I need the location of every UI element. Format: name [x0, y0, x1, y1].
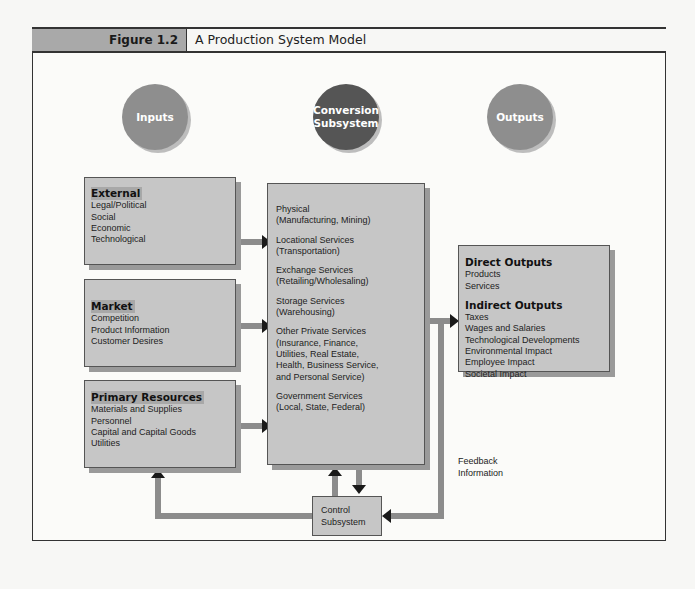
primary-resources-input-box: Primary Resources Materials and Supplies…: [84, 380, 236, 468]
indirect-output-item: Wages and Salaries: [465, 323, 609, 334]
conversion-box: Physical (Manufacturing, Mining) Locatio…: [267, 183, 425, 465]
arrow-left-icon: [382, 509, 391, 523]
conversion-line: (Transportation): [276, 246, 424, 257]
direct-output-item: Services: [465, 281, 609, 292]
figure-label: Figure 1.2: [32, 29, 187, 51]
feedback-vertical-pipe: [438, 321, 444, 519]
control-to-conversion-pipe: [332, 476, 338, 497]
conversion-line: Government Services: [276, 391, 424, 402]
external-heading: External: [91, 187, 142, 200]
control-line1: Control: [321, 505, 350, 515]
primary-resources-item: Utilities: [91, 438, 235, 449]
control-to-inputs-pipe: [155, 513, 313, 519]
conversion-group-other-private: Other Private Services (Insurance, Finan…: [276, 326, 424, 382]
conversion-line: Other Private Services: [276, 326, 424, 337]
conversion-group-storage: Storage Services (Warehousing): [276, 296, 424, 319]
conversion-line: Exchange Services: [276, 265, 424, 276]
conversion-group-exchange: Exchange Services (Retailing/Wholesaling…: [276, 265, 424, 288]
indirect-output-item: Technological Developments: [465, 335, 609, 346]
arrow-up-icon: [328, 467, 342, 476]
outputs-box: Direct Outputs Products Services Indirec…: [458, 245, 610, 372]
external-item: Social: [91, 212, 235, 223]
market-heading: Market: [91, 300, 135, 313]
conversion-line: Locational Services: [276, 235, 424, 246]
conversion-line: (Warehousing): [276, 307, 424, 318]
indirect-output-item: Taxes: [465, 312, 609, 323]
conversion-to-control-pipe: [356, 466, 362, 486]
conversion-line: (Manufacturing, Mining): [276, 215, 424, 226]
primary-resources-item: Materials and Supplies: [91, 404, 235, 415]
direct-output-item: Products: [465, 269, 609, 280]
inputs-circle-label: Inputs: [136, 111, 174, 124]
feedback-line2: Information: [458, 468, 503, 480]
conversion-line: Physical: [276, 204, 424, 215]
market-item: Competition: [91, 313, 235, 324]
conversion-circle: Conversion Subsystem: [313, 84, 379, 150]
conversion-line: Health, Business Service,: [276, 360, 424, 371]
market-item: Customer Desires: [91, 336, 235, 347]
market-input-box: Market Competition Product Information C…: [84, 279, 236, 367]
conversion-line: Storage Services: [276, 296, 424, 307]
conversion-group-locational: Locational Services (Transportation): [276, 235, 424, 258]
conversion-line: Utilities, Real Estate,: [276, 349, 424, 360]
conversion-group-government: Government Services (Local, State, Feder…: [276, 391, 424, 414]
arrow-down-icon: [352, 485, 366, 494]
conversion-line: (Retailing/Wholesaling): [276, 276, 424, 287]
figure-header: Figure 1.2 A Production System Model: [32, 29, 666, 51]
conversion-line: (Local, State, Federal): [276, 402, 424, 413]
feedback-line1: Feedback: [458, 456, 503, 468]
external-item: Legal/Political: [91, 200, 235, 211]
indirect-outputs-heading: Indirect Outputs: [465, 299, 562, 312]
direct-outputs-heading: Direct Outputs: [465, 256, 552, 269]
figure-title: A Production System Model: [195, 29, 366, 51]
external-input-box: External Legal/Political Social Economic…: [84, 177, 236, 265]
conversion-line: and Personal Service): [276, 372, 424, 383]
arrow-up-icon: [151, 469, 165, 478]
outputs-circle-label: Outputs: [496, 111, 544, 124]
conversion-circle-line1: Conversion: [313, 104, 379, 116]
feedback-horizontal-pipe: [390, 513, 444, 519]
market-item: Product Information: [91, 325, 235, 336]
control-to-inputs-vertical-pipe: [155, 478, 161, 519]
inputs-circle: Inputs: [122, 84, 188, 150]
indirect-output-item: Employee Impact: [465, 357, 609, 368]
primary-resources-item: Capital and Capital Goods: [91, 427, 235, 438]
outputs-circle: Outputs: [487, 84, 553, 150]
primary-resources-heading: Primary Resources: [91, 391, 204, 404]
control-line2: Subsystem: [321, 517, 366, 527]
conversion-group-physical: Physical (Manufacturing, Mining): [276, 204, 424, 227]
conversion-line: (Insurance, Finance,: [276, 338, 424, 349]
feedback-information-label: Feedback Information: [458, 456, 503, 479]
external-item: Technological: [91, 234, 235, 245]
conversion-circle-label: Conversion Subsystem: [313, 104, 379, 130]
primary-resources-item: Personnel: [91, 416, 235, 427]
indirect-output-item: Societal Impact: [465, 369, 609, 380]
conversion-circle-line2: Subsystem: [314, 117, 379, 129]
control-subsystem-box: Control Subsystem: [312, 496, 382, 536]
external-item: Economic: [91, 223, 235, 234]
indirect-output-item: Environmental Impact: [465, 346, 609, 357]
